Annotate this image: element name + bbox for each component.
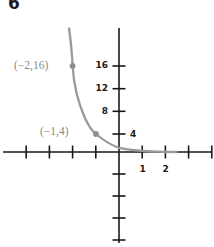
y-tick-label-12: 12 xyxy=(88,84,108,93)
y-tick-label-4: 4 xyxy=(130,130,136,139)
x-tick-label-2: 2 xyxy=(163,165,169,174)
y-tick-label-8: 8 xyxy=(88,107,108,116)
point-label-neg2-16: (−2,16) xyxy=(14,60,48,72)
x-tick-label-1: 1 xyxy=(140,165,146,174)
point-marker-neg2-16 xyxy=(70,63,76,69)
point-marker-neg1-4 xyxy=(93,131,99,137)
coordinate-plot xyxy=(0,0,214,247)
figure-container: 6 xyxy=(0,0,214,247)
y-tick-label-16: 16 xyxy=(88,61,108,70)
point-label-neg1-4: (−1,4) xyxy=(40,126,69,138)
